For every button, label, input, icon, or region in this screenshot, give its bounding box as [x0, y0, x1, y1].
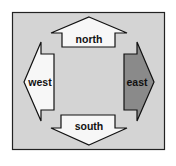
north-label: north — [76, 33, 103, 45]
east-label: east — [126, 76, 148, 88]
compass-diagram: north west east south — [0, 0, 176, 166]
west-label: west — [27, 76, 52, 88]
south-label: south — [75, 120, 104, 132]
